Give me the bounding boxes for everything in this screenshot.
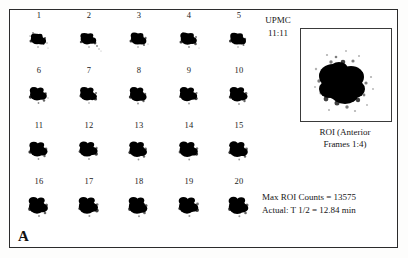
- scintigram-image: [71, 188, 107, 222]
- frame-row: 11: [14, 120, 266, 170]
- frame-label: 3: [114, 10, 164, 20]
- frame-label: 1: [14, 10, 64, 20]
- scintigram-image: [221, 132, 257, 166]
- frame-cell-6[interactable]: 6: [14, 65, 64, 115]
- frame-cell-7[interactable]: 7: [64, 65, 114, 115]
- frame-cell-15[interactable]: 15: [214, 120, 264, 170]
- scintigram-image: [121, 77, 157, 111]
- frame-cell-18[interactable]: 18: [114, 176, 164, 226]
- frame-label: 2: [64, 10, 114, 20]
- scintigram-image: [171, 22, 207, 56]
- scintigram-image: [71, 132, 107, 166]
- frame-label: 7: [64, 65, 114, 75]
- frame-label: 14: [164, 120, 214, 130]
- frame-cell-13[interactable]: 13: [114, 120, 164, 170]
- stats-block: Max ROI Counts = 13575 Actual: T 1/2 = 1…: [262, 191, 402, 217]
- scintigram-image: [121, 22, 157, 56]
- scintigram-image: [121, 188, 157, 222]
- scintigram-image: [171, 77, 207, 111]
- scintigram-image: [221, 77, 257, 111]
- scintigram-image: [71, 77, 107, 111]
- frame-grid: 1: [14, 10, 266, 232]
- frame-label: 13: [114, 120, 164, 130]
- frame-cell-8[interactable]: 8: [114, 65, 164, 115]
- scintigram-image: [71, 22, 107, 56]
- scintigram-image: [221, 22, 257, 56]
- frame-cell-9[interactable]: 9: [164, 65, 214, 115]
- frame-label: 9: [164, 65, 214, 75]
- frame-cell-1[interactable]: 1: [14, 10, 64, 60]
- frame-cell-10[interactable]: 10: [214, 65, 264, 115]
- frame-cell-20[interactable]: 20: [214, 176, 264, 226]
- frame-label: 20: [214, 176, 264, 186]
- frame-label: 15: [214, 120, 264, 130]
- header-text-block: UPMC 11:11: [256, 14, 300, 40]
- frame-label: 6: [14, 65, 64, 75]
- frame-label: 16: [14, 176, 64, 186]
- frame-row: 16: [14, 176, 266, 226]
- frame-cell-17[interactable]: 17: [64, 176, 114, 226]
- frame-cell-11[interactable]: 11: [14, 120, 64, 170]
- institution-label: UPMC: [256, 14, 300, 27]
- roi-caption: ROI (Anterior Frames 1:4): [286, 126, 404, 150]
- frame-cell-12[interactable]: 12: [64, 120, 114, 170]
- frame-label: 17: [64, 176, 114, 186]
- acquisition-time: 11:11: [256, 27, 300, 40]
- scintigram-image: [171, 188, 207, 222]
- frame-cell-2[interactable]: 2: [64, 10, 114, 60]
- frame-cell-16[interactable]: 16: [14, 176, 64, 226]
- frame-cell-4[interactable]: 4: [164, 10, 214, 60]
- panel-letter: A: [18, 228, 29, 245]
- scintigram-image: [121, 132, 157, 166]
- frame-label: 18: [114, 176, 164, 186]
- scintigram-image: [221, 188, 257, 222]
- frame-cell-14[interactable]: 14: [164, 120, 214, 170]
- frame-label: 8: [114, 65, 164, 75]
- film-background: 1: [0, 0, 408, 258]
- frame-row: 6: [14, 65, 266, 115]
- scintigram-image: [21, 188, 57, 222]
- frame-label: 11: [14, 120, 64, 130]
- roi-caption-line-2: Frames 1:4): [286, 138, 404, 150]
- scintigram-image: [21, 77, 57, 111]
- frame-row: 1: [14, 10, 266, 60]
- frame-cell-19[interactable]: 19: [164, 176, 214, 226]
- frame-cell-3[interactable]: 3: [114, 10, 164, 60]
- frame-label: 12: [64, 120, 114, 130]
- frame-label: 4: [164, 10, 214, 20]
- half-life-value: Actual: T 1/2 = 12.84 min: [262, 204, 402, 217]
- roi-inset-panel[interactable]: [300, 28, 392, 122]
- frame-label: 10: [214, 65, 264, 75]
- frame-label: 19: [164, 176, 214, 186]
- roi-caption-line-1: ROI (Anterior: [286, 126, 404, 138]
- max-roi-counts: Max ROI Counts = 13575: [262, 191, 402, 204]
- scintigram-image: [171, 132, 207, 166]
- scintigram-image: [21, 22, 57, 56]
- scintigram-image: [21, 132, 57, 166]
- roi-scintigram-image: [301, 29, 391, 121]
